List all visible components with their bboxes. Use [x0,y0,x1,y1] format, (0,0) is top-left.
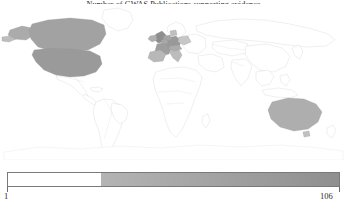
choropleth-figure: Number of GWAS Publications supporting e… [0,0,347,205]
region-tasmania [303,131,310,137]
colorbar-gradient [8,173,339,186]
colorbar-legend: 1 106 [0,160,347,205]
world-map-panel [0,4,347,160]
colorbar-max-label: 106 [320,191,333,201]
colorbar-frame[interactable] [7,172,340,187]
region-denmark [170,30,177,36]
colorbar-min-label: 1 [4,191,8,201]
world-map-svg [0,4,347,160]
colorbar-tick-max [339,187,340,192]
region-canada [29,18,106,52]
